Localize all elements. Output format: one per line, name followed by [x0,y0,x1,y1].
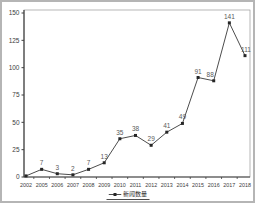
data-point-label: 88 [207,71,215,78]
x-axis-tick-label: 2018 [239,182,251,188]
x-axis-tick-label: 2010 [114,182,126,188]
data-point-marker [118,137,121,140]
x-axis-tick-label: 2015 [192,182,204,188]
chart-canvas: 0255075100125150200220052006200720082009… [0,0,255,203]
data-point-label: 29 [148,135,156,142]
data-point-marker [56,172,59,175]
data-point-marker [181,122,184,125]
data-point-marker [134,134,137,137]
data-point-label: 13 [101,153,109,160]
data-point-marker [244,54,247,57]
x-axis-tick-label: 2008 [83,182,95,188]
y-axis-tick-label: 25 [12,146,20,153]
legend-label: 新闻数量 [123,191,147,198]
x-axis-tick-label: 2014 [176,182,188,188]
data-point-label: 3 [55,164,59,171]
data-point-label: 111 [241,46,251,53]
y-axis-tick-label: 75 [12,91,20,98]
x-axis-tick-label: 2013 [161,182,173,188]
y-axis-tick-label: 0 [16,173,20,180]
data-point-marker [228,21,231,24]
y-axis-tick-label: 125 [9,37,20,44]
legend-line-square-marker-icon [108,191,121,198]
data-point-label: 41 [163,122,171,129]
data-point-label: 7 [87,159,91,166]
y-axis-tick-label: 50 [12,119,20,126]
data-point-label: 35 [116,129,124,136]
x-axis-tick-label: 2012 [145,182,157,188]
data-point-marker [71,173,74,176]
plot-area-border [24,10,250,177]
x-axis-tick-label: 2011 [130,182,142,188]
line-chart: 0255075100125150200220052006200720082009… [2,2,255,203]
data-point-label: 2 [71,165,75,172]
x-axis-tick-label: 2005 [36,182,48,188]
data-point-label: 38 [132,125,140,132]
x-axis-tick-label: 2002 [20,182,32,188]
data-point-marker [103,161,106,164]
legend: 新闻数量 [106,191,149,200]
data-point-marker [87,168,90,171]
data-point-marker [150,144,153,147]
data-point-marker [25,174,28,177]
y-axis-tick-label: 100 [9,64,20,71]
data-point-label: 141 [224,13,235,20]
data-point-marker [197,76,200,79]
y-axis-tick-label: 150 [9,9,20,16]
x-axis-tick-label: 2006 [51,182,63,188]
data-point-marker [40,168,43,171]
x-axis-tick-label: 2007 [67,182,79,188]
data-point-label: 91 [194,68,202,75]
series-line [26,23,245,176]
data-point-label: 7 [40,159,44,166]
data-point-label: 49 [179,113,187,120]
x-axis-tick-label: 2009 [98,182,110,188]
x-axis-tick-label: 2017 [223,182,235,188]
data-point-marker [165,131,168,134]
x-axis-tick-label: 2016 [208,182,220,188]
data-point-marker [212,79,215,82]
